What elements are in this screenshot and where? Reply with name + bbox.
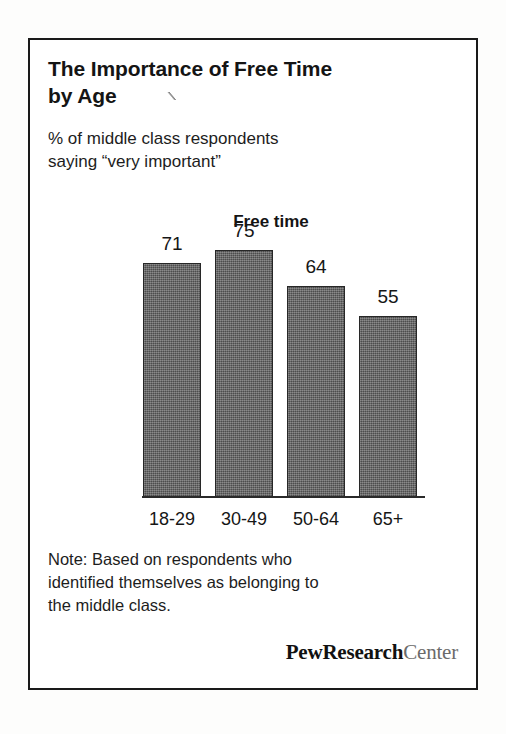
chart-note: Note: Based on respondents who identifie… xyxy=(48,548,448,616)
bar-value-label: 55 xyxy=(377,286,398,308)
bar xyxy=(359,316,417,498)
infographic-card: The Importance of Free Time by Age % of … xyxy=(28,38,478,690)
bar-group: 71 xyxy=(143,263,201,498)
bar-chart: Free time 7118-297530-496450-645565+ xyxy=(30,200,476,540)
bar xyxy=(215,250,273,498)
page-subtitle: % of middle class respondents saying “ve… xyxy=(48,128,438,173)
logo-secondary-text: Center xyxy=(403,640,458,664)
chart-plot-area: 7118-297530-496450-645565+ xyxy=(30,200,476,540)
category-label: 65+ xyxy=(373,509,404,530)
page-title: The Importance of Free Time by Age xyxy=(48,56,448,110)
page-background: The Importance of Free Time by Age % of … xyxy=(0,0,506,734)
bar-value-label: 75 xyxy=(233,220,254,242)
bar-value-label: 71 xyxy=(161,233,182,255)
chart-axis-baseline xyxy=(142,496,425,498)
category-label: 18-29 xyxy=(149,509,195,530)
bar-group: 55 xyxy=(359,316,417,498)
logo-primary-text: PewResearch xyxy=(286,640,404,664)
category-label: 50-64 xyxy=(293,509,339,530)
bar-group: 64 xyxy=(287,286,345,498)
scan-artifact-mark xyxy=(167,92,176,100)
bar-group: 75 xyxy=(215,250,273,498)
pew-research-center-logo: PewResearchCenter xyxy=(286,640,458,665)
bar-value-label: 64 xyxy=(305,256,326,278)
bar xyxy=(287,286,345,498)
bar xyxy=(143,263,201,498)
category-label: 30-49 xyxy=(221,509,267,530)
